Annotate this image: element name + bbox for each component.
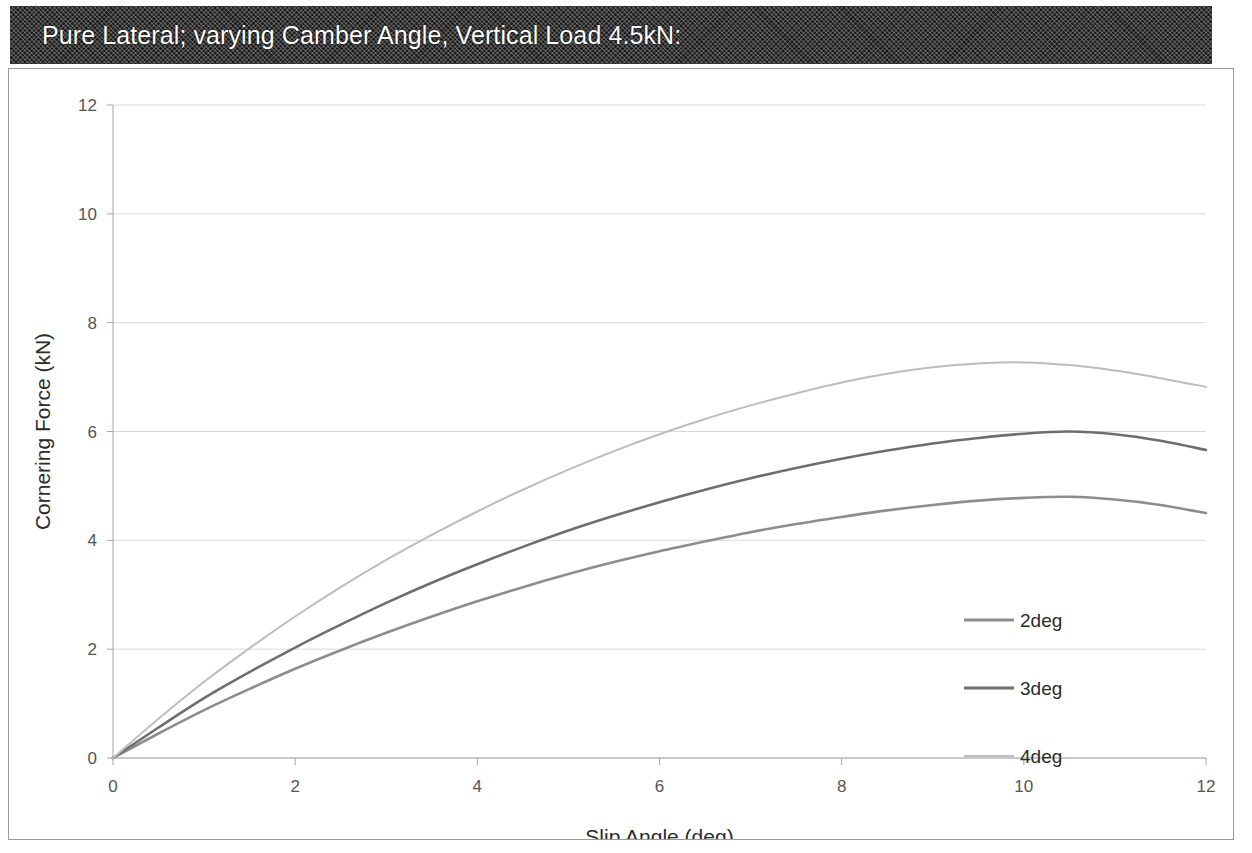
legend-label-3deg: 3deg (1020, 678, 1062, 699)
x-tick-labels-group: 024681012 (108, 777, 1215, 796)
x-axis-title: Slip Angle (deg) (585, 825, 733, 839)
chart-title: Pure Lateral; varying Camber Angle, Vert… (10, 21, 681, 50)
chart-plot-container: 024681012 024681012 2deg3deg4deg Corneri… (9, 69, 1233, 839)
x-tick-label: 6 (655, 777, 664, 796)
legend-group: 2deg3deg4deg (964, 610, 1062, 767)
series-line-3deg (113, 431, 1206, 758)
x-tick-label: 8 (837, 777, 846, 796)
chart-page: Pure Lateral; varying Camber Angle, Vert… (0, 0, 1252, 853)
x-tick-label: 2 (290, 777, 299, 796)
x-tick-label: 0 (108, 777, 117, 796)
y-tick-label: 8 (88, 314, 97, 333)
x-tick-label: 4 (473, 777, 482, 796)
line-chart: 024681012 024681012 2deg3deg4deg Corneri… (9, 69, 1233, 839)
x-tick-label: 12 (1197, 777, 1216, 796)
y-tick-label: 2 (88, 640, 97, 659)
legend-label-4deg: 4deg (1020, 746, 1062, 767)
y-tick-label: 6 (88, 423, 97, 442)
y-tick-label: 0 (88, 749, 97, 768)
y-tick-labels-group: 024681012 (78, 96, 97, 768)
y-tick-label: 12 (78, 96, 97, 115)
y-tick-label: 10 (78, 205, 97, 224)
chart-title-banner: Pure Lateral; varying Camber Angle, Vert… (10, 6, 1212, 64)
legend-label-2deg: 2deg (1020, 610, 1062, 631)
y-axis-title: Cornering Force (kN) (31, 333, 54, 530)
x-tick-label: 10 (1014, 777, 1033, 796)
y-tick-label: 4 (88, 531, 97, 550)
